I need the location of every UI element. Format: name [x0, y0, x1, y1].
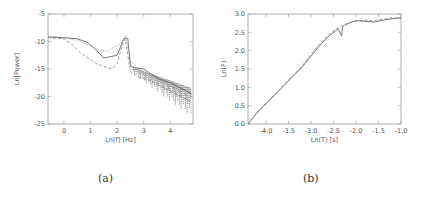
x-tick-label: 2: [115, 127, 119, 135]
x-tick-label: -3.0: [305, 127, 318, 135]
y-axis-label: Ln(F): [220, 61, 228, 78]
x-tick-label: 4: [168, 127, 172, 135]
series-dashed: [248, 18, 401, 124]
y-tick-label: -5: [39, 10, 45, 18]
y-tick-label: 1.5: [235, 65, 245, 73]
x-tick-label: -1.0: [395, 127, 408, 135]
y-axis-label: Ln[Power]: [13, 53, 21, 85]
y-tick-label: -25: [34, 120, 45, 128]
chart-b: -4.0-3.5-3.0-2.5-2.0-1.5-1.00.00.51.01.5…: [211, 0, 422, 160]
x-tick-label: 0: [62, 127, 66, 135]
plot-frame: [48, 14, 193, 124]
y-tick-label: -10: [34, 38, 45, 46]
x-tick-label: -1.5: [372, 127, 385, 135]
series-dotted: [48, 36, 192, 99]
chart-a: 01234-5-10-15-20-25Ln[f] [Hz]Ln[Power]: [0, 0, 211, 160]
y-tick-label: 1.0: [235, 84, 245, 92]
lnF-vs-lnT-plot: -4.0-3.5-3.0-2.5-2.0-1.5-1.00.00.51.01.5…: [211, 0, 422, 160]
y-tick-label: 0.0: [235, 120, 245, 128]
series-solid: [248, 18, 401, 124]
x-tick-label: -4.0: [260, 127, 273, 135]
x-tick-label: 1: [88, 127, 92, 135]
y-tick-label: -15: [34, 65, 45, 73]
y-tick-label: 3.0: [235, 10, 245, 18]
y-tick-label: 0.5: [235, 102, 245, 110]
x-axis-label: Ln[f] [Hz]: [105, 136, 136, 144]
caption-b: (b): [303, 172, 319, 185]
noise-texture: [133, 67, 191, 113]
plot-frame: [248, 14, 401, 124]
power-spectrum-plot: 01234-5-10-15-20-25Ln[f] [Hz]Ln[Power]: [0, 0, 211, 160]
x-axis-label: Ln(T) [s]: [311, 136, 338, 144]
y-tick-label: 2.5: [235, 29, 245, 37]
x-tick-label: -2.5: [327, 127, 340, 135]
x-tick-label: 3: [142, 127, 146, 135]
y-tick-label: -20: [34, 93, 45, 101]
x-tick-label: -2.0: [350, 127, 363, 135]
y-tick-label: 2.0: [235, 47, 245, 55]
caption-a: (a): [98, 172, 113, 185]
x-tick-label: -3.5: [282, 127, 295, 135]
